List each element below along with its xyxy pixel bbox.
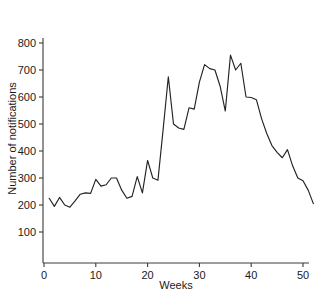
y-tick-label: 100 [18, 226, 36, 238]
x-tick-label: 20 [141, 269, 153, 281]
x-tick-label: 30 [193, 269, 205, 281]
x-tick-label: 50 [297, 269, 309, 281]
y-tick-label: 200 [18, 199, 36, 211]
y-tick-label: 500 [18, 118, 36, 130]
chart-container: 100200300400500600700800 01020304050 Wee… [0, 0, 321, 299]
x-tick-label: 0 [41, 269, 47, 281]
data-series-line [49, 55, 313, 207]
y-axis-title: Number of notifications [6, 82, 18, 195]
y-tick-label: 700 [18, 64, 36, 76]
x-tick-label: 40 [245, 269, 257, 281]
x-axis-title: Weeks [159, 279, 193, 291]
y-axis-ticks: 100200300400500600700800 [18, 37, 43, 238]
line-chart: 100200300400500600700800 01020304050 Wee… [0, 0, 321, 299]
y-tick-label: 600 [18, 91, 36, 103]
x-tick-label: 10 [90, 269, 102, 281]
y-tick-label: 400 [18, 145, 36, 157]
y-tick-label: 300 [18, 172, 36, 184]
y-tick-label: 800 [18, 37, 36, 49]
